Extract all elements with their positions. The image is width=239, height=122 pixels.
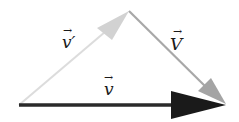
label-v: v → (104, 71, 114, 99)
label-v-prime: v′ → (62, 24, 76, 52)
svg-text:→: → (104, 71, 113, 84)
svg-text:→: → (173, 25, 182, 38)
label-V: V → (170, 25, 184, 54)
svg-text:→: → (63, 24, 72, 37)
vector-v (19, 91, 226, 119)
vector-diagram: v′ → V → v → (0, 0, 239, 122)
